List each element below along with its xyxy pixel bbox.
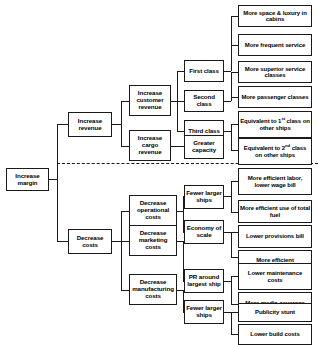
- node-label: More efficient labor, lower wage bill: [240, 175, 310, 188]
- node-equivalent-to-first-class-on-other-ships[interactable]: Equivalent to 1st class on other ships: [238, 111, 312, 138]
- node-label: Lower provisions bill: [240, 233, 310, 239]
- connector-to-equivalent-first-class: [231, 124, 238, 125]
- connector-to-lower-provisions-bill: [231, 232, 238, 233]
- connector-to-increase-customer-revenue: [121, 101, 129, 102]
- node-label: More efficient use of total fuel: [240, 205, 310, 218]
- connector-decrease-costs-out: [112, 241, 121, 242]
- node-label: Decrease costs: [70, 235, 110, 248]
- node-decrease-manufacturing-costs[interactable]: Decrease manufacturing costs: [129, 274, 177, 305]
- connector-to-equivalent-second-class: [231, 150, 238, 151]
- connector-to-second-class: [177, 101, 184, 102]
- node-lower-provisions-bill[interactable]: Lower provisions bill: [238, 225, 312, 248]
- connector-to-decrease-marketing-costs: [121, 241, 129, 242]
- connector-pr-out: [224, 281, 231, 282]
- node-publicity-stunt[interactable]: Publicity stunt: [238, 303, 312, 322]
- node-label: Equivalent to 1st class on other ships: [240, 118, 310, 131]
- connector-pr-spine: [231, 276, 232, 304]
- connector-second-class-out: [224, 101, 231, 102]
- connector-to-publicity-stunt: [231, 312, 238, 313]
- node-label: Lower build costs: [240, 331, 310, 337]
- connector-increase-revenue-out: [112, 124, 121, 125]
- issue-tree-diagram: Increase margin Increase revenue Decreas…: [0, 0, 318, 345]
- connector-economy-scale-spine: [231, 232, 232, 257]
- node-more-space-luxury-in-cabins[interactable]: More space & luxury in cabins: [238, 5, 312, 27]
- connector-to-more-space-luxury: [231, 16, 238, 17]
- node-fewer-larger-ships-manufacturing[interactable]: Fewer larger ships: [184, 300, 224, 324]
- node-increase-margin[interactable]: Increase margin: [6, 168, 49, 191]
- connector-root-spine: [57, 124, 58, 241]
- node-decrease-costs[interactable]: Decrease costs: [68, 229, 112, 254]
- connector-to-decrease-operational-costs: [121, 211, 129, 212]
- node-label: First class: [186, 68, 222, 75]
- node-more-efficient-labor-lower-wage-bill[interactable]: More efficient labor, lower wage bill: [238, 168, 312, 195]
- node-lower-maintenance-costs[interactable]: Lower maintenance costs: [238, 263, 312, 290]
- connector-to-lower-maintenance-costs: [231, 276, 238, 277]
- connector-to-more-media-coverage: [231, 304, 238, 305]
- node-decrease-marketing-costs[interactable]: Decrease marketing costs: [129, 225, 177, 256]
- connector-root-to-increase-revenue: [57, 124, 68, 125]
- node-label: Decrease manufacturing costs: [131, 279, 175, 299]
- node-label: Equivalent to 2nd class on other ships: [240, 145, 310, 158]
- node-more-frequent-service[interactable]: More frequent service: [238, 34, 312, 56]
- connector-third-class-out: [224, 131, 231, 132]
- connector-increase-revenue-spine: [121, 101, 122, 146]
- node-label: Decrease marketing costs: [131, 230, 175, 250]
- node-label: Increase margin: [8, 173, 47, 186]
- connector-fewer-ships-ops-out: [224, 196, 231, 197]
- node-label: Publicity stunt: [240, 309, 310, 315]
- node-label: Greater capacity: [186, 140, 222, 153]
- node-lower-build-costs[interactable]: Lower build costs: [238, 324, 312, 345]
- node-equivalent-to-second-class-on-other-ships[interactable]: Equivalent to 2nd class on other ships: [238, 138, 312, 165]
- node-label: PR around largest ship: [186, 274, 222, 287]
- connector-to-lower-build-costs: [231, 334, 238, 335]
- connector-to-decrease-manufacturing-costs: [121, 290, 129, 291]
- connector-fewer-ships-mfg-spine: [231, 312, 232, 334]
- connector-decrease-costs-spine: [121, 211, 122, 290]
- connector-root-out: [48, 179, 57, 180]
- node-label: More passenger classes: [240, 94, 310, 100]
- node-second-class[interactable]: Second class: [184, 90, 224, 112]
- connector-to-third-class: [177, 131, 184, 132]
- connector-third-class-spine: [231, 124, 232, 150]
- node-label: More space & luxury in cabins: [240, 10, 310, 23]
- connector-to-more-efficient: [231, 257, 238, 258]
- connector-to-more-superior-service-classes: [231, 72, 238, 73]
- connector-fewer-ships-mfg-out: [224, 312, 231, 313]
- node-more-superior-service-classes[interactable]: More superior service classes: [238, 61, 312, 83]
- node-more-efficient-use-of-total-fuel[interactable]: More efficient use of total fuel: [238, 200, 312, 223]
- node-greater-capacity[interactable]: Greater capacity: [184, 135, 224, 159]
- node-label: Second class: [186, 94, 222, 107]
- node-label: More frequent service: [240, 42, 310, 48]
- node-increase-cargo-revenue[interactable]: Increase cargo revenue: [129, 130, 171, 161]
- node-decrease-operational-costs[interactable]: Decrease operational costs: [129, 195, 177, 226]
- node-label: Increase customer revenue: [131, 90, 169, 110]
- node-label: Decrease operational costs: [131, 200, 175, 220]
- connector-to-first-class: [177, 71, 184, 72]
- node-label: Fewer larger ships: [186, 190, 222, 203]
- node-label: Increase revenue: [70, 118, 110, 131]
- node-label: More superior service classes: [240, 66, 310, 79]
- node-fewer-larger-ships-operational[interactable]: Fewer larger ships: [184, 185, 224, 209]
- node-increase-revenue[interactable]: Increase revenue: [68, 112, 112, 137]
- connector-cargo-revenue-to-greater-capacity: [171, 146, 184, 147]
- node-more-passenger-classes[interactable]: More passenger classes: [238, 86, 312, 108]
- node-first-class[interactable]: First class: [184, 60, 224, 82]
- connector-to-more-efficient-labor: [231, 181, 238, 182]
- node-label: Economy of scale: [186, 225, 222, 238]
- node-label: Increase cargo revenue: [131, 135, 169, 155]
- node-label: Lower maintenance costs: [240, 270, 310, 283]
- node-label: Third class: [186, 128, 222, 135]
- node-label: Fewer larger ships: [186, 305, 222, 318]
- connector-first-class-out: [224, 71, 231, 72]
- connector-root-to-decrease-costs: [57, 241, 68, 242]
- connector-to-more-frequent-service: [231, 45, 238, 46]
- node-increase-customer-revenue[interactable]: Increase customer revenue: [129, 85, 171, 116]
- node-economy-of-scale[interactable]: Economy of scale: [184, 220, 224, 244]
- connector-first-class-spine: [231, 16, 232, 71]
- connector-to-more-efficient-fuel: [231, 212, 238, 213]
- node-pr-around-largest-ship[interactable]: PR around largest ship: [184, 269, 224, 293]
- connector-to-increase-cargo-revenue: [121, 146, 129, 147]
- connector-to-more-passenger-classes: [231, 97, 238, 98]
- connector-economy-scale-out: [224, 232, 231, 233]
- connector-fewer-ships-ops-spine: [231, 181, 232, 212]
